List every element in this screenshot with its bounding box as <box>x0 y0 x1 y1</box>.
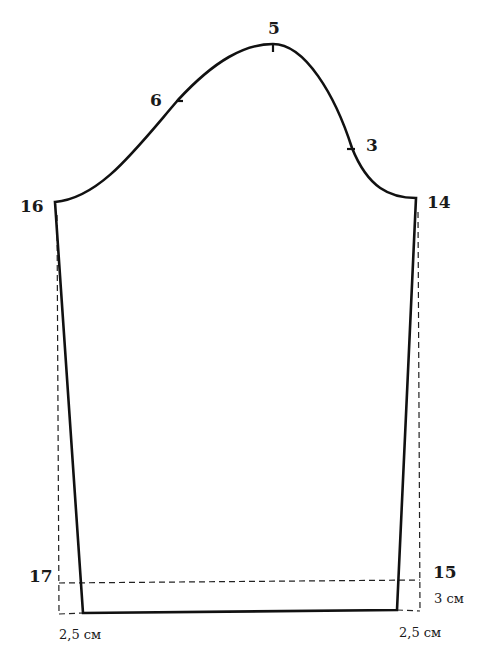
label-point-5: 5 <box>268 18 280 38</box>
sleeve-outline <box>55 44 416 613</box>
label-point-6: 6 <box>150 90 162 110</box>
label-point-16: 16 <box>20 196 44 216</box>
right-bottom-offset-line <box>397 610 420 611</box>
construction-lines <box>57 212 420 614</box>
left-bottom-offset-line <box>59 613 83 614</box>
right-construction-line <box>418 212 420 612</box>
left-taper-label: 2,5 см <box>59 627 101 642</box>
label-point-17: 17 <box>29 566 53 586</box>
label-point-15: 15 <box>433 562 457 582</box>
hem-allowance-label: 3 см <box>434 591 464 606</box>
label-point-3: 3 <box>366 135 378 155</box>
label-point-14: 14 <box>427 192 451 212</box>
right-taper-label: 2,5 см <box>399 625 441 640</box>
sleeve-pattern-diagram: 5 6 3 16 14 17 15 3 см 2,5 см 2,5 см <box>0 0 487 661</box>
hem-fold-line <box>59 580 420 583</box>
